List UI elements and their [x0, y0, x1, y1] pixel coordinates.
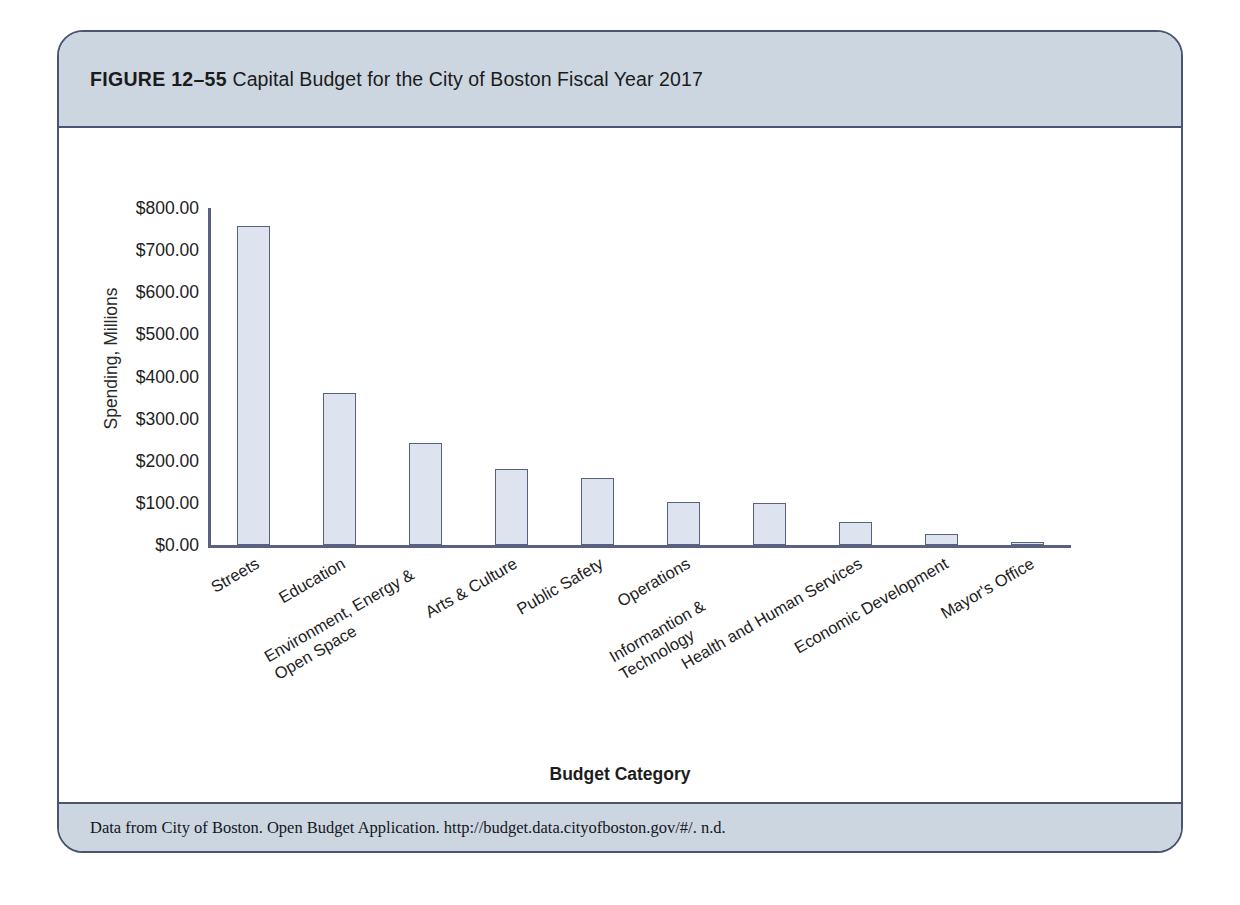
- bar: [753, 503, 786, 545]
- x-tick-label: Economic Development: [791, 554, 951, 658]
- bar: [237, 226, 270, 545]
- figure-source-band: Data from City of Boston. Open Budget Ap…: [59, 802, 1181, 851]
- figure-container: FIGURE 12–55 Capital Budget for the City…: [57, 30, 1183, 853]
- x-axis-title: Budget Category: [59, 764, 1181, 785]
- chart-area: Spending, Millions $0.00$100.00$200.00$3…: [59, 128, 1181, 806]
- bar: [667, 502, 700, 545]
- source-note: Data from City of Boston. Open Budget Ap…: [59, 818, 726, 838]
- y-tick-label: $0.00: [155, 535, 199, 556]
- y-tick-label: $100.00: [136, 492, 199, 513]
- bar: [581, 478, 614, 545]
- y-tick-label: $700.00: [136, 240, 199, 261]
- y-axis-line: [208, 208, 211, 545]
- bar: [409, 443, 442, 545]
- y-axis-title: Spending, Millions: [101, 279, 122, 439]
- y-tick-label: $200.00: [136, 450, 199, 471]
- y-tick-label: $500.00: [136, 324, 199, 345]
- figure-caption-label: Capital Budget for the City of Boston Fi…: [232, 68, 702, 90]
- x-axis-line: [208, 545, 1071, 548]
- bar: [925, 534, 958, 545]
- x-tick-label: Operations: [614, 554, 693, 611]
- x-tick-label: Streets: [208, 554, 263, 597]
- figure-title: FIGURE 12–55 Capital Budget for the City…: [59, 68, 703, 91]
- bar: [1011, 542, 1044, 545]
- y-tick-label: $600.00: [136, 282, 199, 303]
- figure-header-band: FIGURE 12–55 Capital Budget for the City…: [59, 32, 1181, 128]
- x-tick-label: Environment, Energy & Open Space: [261, 554, 446, 684]
- bar: [839, 522, 872, 545]
- x-tick-label: Public Safety: [514, 554, 607, 619]
- bar: [495, 469, 528, 545]
- x-tick-label: Education: [276, 554, 349, 607]
- x-tick-label: Mayor's Office: [937, 554, 1037, 623]
- y-tick-label: $400.00: [136, 366, 199, 387]
- bar: [323, 393, 356, 545]
- y-tick-label: $300.00: [136, 408, 199, 429]
- y-tick-label: $800.00: [136, 198, 199, 219]
- plot-area: $0.00$100.00$200.00$300.00$400.00$500.00…: [210, 208, 1071, 545]
- figure-number-label: FIGURE 12–55: [90, 68, 227, 90]
